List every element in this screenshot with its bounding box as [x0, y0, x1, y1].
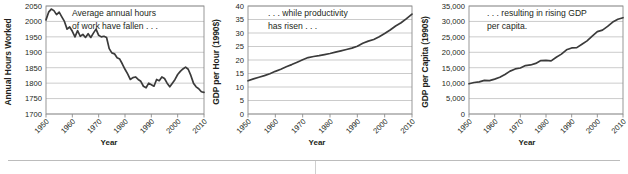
y-axis-tick-label: 40 — [236, 2, 244, 11]
y-axis-tick-label: 1800 — [25, 79, 42, 88]
y-axis-label-text: GDP per Capita (1990$) — [420, 16, 430, 108]
y-axis-tick-label: 10,000 — [442, 79, 465, 88]
x-axis-tick-label: 2010 — [399, 117, 416, 135]
chart-annotation-line-2: of work have fallen . . . — [72, 21, 158, 31]
y-axis-tick-label: 30 — [236, 29, 244, 38]
y-axis-tick-label: 35,000 — [442, 2, 465, 11]
chart-svg-annual-hours-worked: 1700175018001850190019502000205019501960… — [14, 0, 208, 140]
x-axis-tick-label: 1980 — [533, 117, 551, 135]
y-axis-tick-label: 2050 — [25, 2, 42, 11]
x-axis-tick-label: 1960 — [481, 117, 499, 135]
chart-annotation-line-1: . . . resulting in rising GDP — [487, 8, 587, 18]
footer-column-tick — [315, 161, 316, 174]
three-panel-chart-figure: Annual Hours Worked 17001750180018501900… — [0, 0, 628, 152]
y-axis-tick-label: 10 — [236, 83, 244, 92]
footer-divider-rule — [8, 160, 620, 161]
y-axis-tick-label: 5 — [240, 96, 244, 105]
x-axis-tick-label: 1970 — [289, 117, 307, 135]
x-axis-tick-label: 1950 — [456, 117, 474, 135]
y-axis-tick-label: 35 — [236, 15, 244, 24]
chart-panel-annual-hours-worked: Annual Hours Worked 17001750180018501900… — [0, 0, 208, 152]
y-axis-tick-label: 1750 — [25, 94, 42, 103]
x-axis-tick-label: 1970 — [85, 117, 103, 135]
chart-annotation-line-1: Average annual hours — [72, 8, 156, 18]
x-axis-tick-label: 1980 — [317, 117, 335, 135]
x-axis-label-gdp-per-hour: Year — [222, 138, 412, 147]
x-axis-tick-label: 2000 — [164, 117, 182, 135]
chart-panel-gdp-per-capita: GDP per Capita (1990$) 05,00010,00015,00… — [417, 0, 628, 152]
x-axis-tick-label: 1970 — [507, 117, 525, 135]
y-axis-label-text: GDP per Hour (1990$) — [211, 19, 221, 105]
x-axis-tick-label: 1990 — [138, 117, 156, 135]
y-axis-tick-label: 5,000 — [446, 94, 465, 103]
chart-annotation-line-2: per capita. — [487, 21, 527, 31]
chart-panel-gdp-per-hour: GDP per Hour (1990$) 0510152025303540195… — [208, 0, 417, 152]
x-axis-tick-label: 1960 — [262, 117, 280, 135]
x-axis-tick-label: 2010 — [610, 117, 627, 135]
y-axis-tick-label: 15,000 — [442, 64, 465, 73]
y-axis-tick-label: 1850 — [25, 64, 42, 73]
y-axis-tick-label: 0 — [461, 110, 465, 119]
chart-svg-gdp-per-capita: 05,00010,00015,00020,00025,00030,00035,0… — [431, 0, 627, 140]
x-axis-tick-label: 1980 — [112, 117, 130, 135]
y-axis-tick-label: 0 — [240, 110, 244, 119]
x-axis-label-gdp-per-capita: Year — [431, 138, 623, 147]
chart-annotation-line-2: has risen . . . — [268, 21, 317, 31]
y-axis-tick-label: 2000 — [25, 17, 42, 26]
x-axis-tick-label: 2010 — [191, 117, 208, 135]
x-axis-tick-label: 1990 — [558, 117, 576, 135]
y-axis-tick-label: 1900 — [25, 48, 42, 57]
x-axis-tick-label: 1960 — [59, 117, 77, 135]
y-axis-tick-label: 25,000 — [442, 33, 465, 42]
chart-svg-gdp-per-hour: 0510152025303540195019601970198019902000… — [222, 0, 416, 140]
x-axis-tick-label: 2000 — [371, 117, 389, 135]
y-axis-tick-label: 1950 — [25, 33, 42, 42]
x-axis-tick-label: 1950 — [235, 117, 253, 135]
y-axis-tick-label: 1700 — [25, 110, 42, 119]
y-axis-tick-label: 20 — [236, 56, 244, 65]
y-axis-tick-label: 30,000 — [442, 17, 465, 26]
y-axis-tick-label: 20,000 — [442, 48, 465, 57]
x-axis-tick-label: 1950 — [33, 117, 51, 135]
x-axis-tick-label: 1990 — [344, 117, 362, 135]
y-axis-tick-label: 15 — [236, 69, 244, 78]
y-axis-label-text: Annual Hours Worked — [3, 18, 13, 105]
x-axis-label-annual-hours-worked: Year — [14, 138, 204, 147]
chart-annotation-line-1: . . . while productivity — [268, 8, 348, 18]
x-axis-tick-label: 2000 — [584, 117, 602, 135]
y-axis-tick-label: 25 — [236, 42, 244, 51]
